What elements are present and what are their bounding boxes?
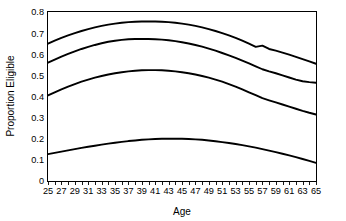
- x-tick-label: 31: [83, 186, 93, 196]
- y-axis-title: Proportion Eligible: [5, 55, 16, 137]
- proportion-eligible-line-chart: 00.10.20.30.40.50.60.70.8 25272931333537…: [0, 0, 346, 221]
- y-tick-label: 0.7: [31, 29, 44, 39]
- x-tick-label: 29: [70, 186, 80, 196]
- x-tick-label: 49: [204, 186, 214, 196]
- x-tick-label: 37: [123, 186, 133, 196]
- chart-figure: 00.10.20.30.40.50.60.70.8 25272931333537…: [0, 0, 346, 221]
- x-tick-label: 25: [43, 186, 53, 196]
- x-tick-label: 61: [284, 186, 294, 196]
- x-axis-title: Age: [173, 206, 191, 217]
- x-tick-label: 53: [230, 186, 240, 196]
- y-axis-tick-labels: 00.10.20.30.40.50.60.70.8: [31, 7, 44, 186]
- x-tick-label: 55: [244, 186, 254, 196]
- x-tick-label: 39: [137, 186, 147, 196]
- x-tick-label: 63: [297, 186, 307, 196]
- y-tick-label: 0.5: [31, 71, 44, 81]
- x-tick-label: 59: [271, 186, 281, 196]
- y-tick-label: 0.6: [31, 50, 44, 60]
- x-tick-label: 35: [110, 186, 120, 196]
- x-tick-label: 57: [257, 186, 267, 196]
- x-tick-label: 33: [96, 186, 106, 196]
- y-tick-label: 0.4: [31, 92, 44, 102]
- y-tick-label: 0.3: [31, 113, 44, 123]
- x-tick-label: 65: [311, 186, 321, 196]
- y-tick-label: 0: [39, 176, 44, 186]
- x-axis-tick-labels: 2527293133353739414345474951535557596163…: [43, 186, 321, 196]
- x-tick-label: 45: [177, 186, 187, 196]
- x-tick-label: 41: [150, 186, 160, 196]
- x-tick-label: 27: [56, 186, 66, 196]
- y-tick-label: 0.1: [31, 155, 44, 165]
- y-tick-label: 0.2: [31, 134, 44, 144]
- x-tick-label: 51: [217, 186, 227, 196]
- x-tick-label: 43: [163, 186, 173, 196]
- y-tick-label: 0.8: [31, 7, 44, 17]
- x-tick-label: 47: [190, 186, 200, 196]
